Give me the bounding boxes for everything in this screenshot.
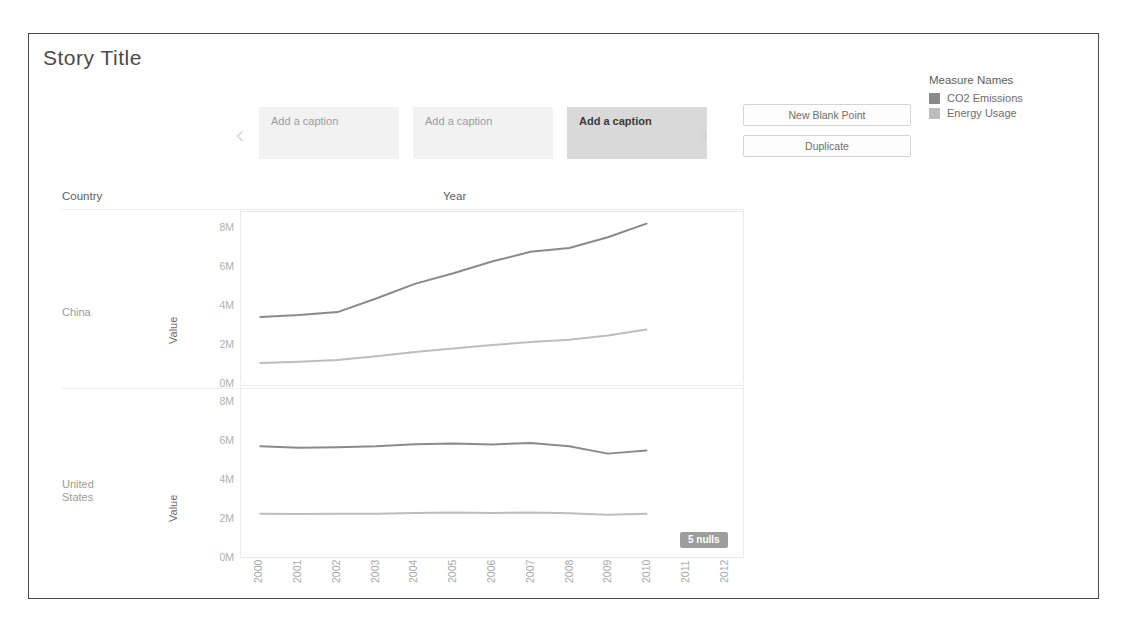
header-divider <box>62 209 744 210</box>
y-axis-title-united-states: Value <box>167 464 180 522</box>
y-tick-label: 2M <box>200 512 234 524</box>
legend-item-co2-emissions[interactable]: CO2 Emissions <box>929 92 1089 104</box>
story-frame: Story Title ‹ Add a caption Add a captio… <box>28 33 1099 599</box>
x-tick-label: 2003 <box>369 560 383 600</box>
caption-strip: Add a caption Add a caption Add a captio… <box>259 107 689 159</box>
row-label-china[interactable]: China <box>62 306 140 319</box>
caption-label: Add a caption <box>579 115 652 127</box>
legend-item-energy-usage[interactable]: Energy Usage <box>929 107 1089 119</box>
x-tick-label: 2002 <box>330 560 344 600</box>
plot-area-united-states[interactable] <box>240 385 744 557</box>
x-tick-label: 2012 <box>718 560 732 600</box>
story-point-1[interactable]: Add a caption <box>259 107 399 159</box>
x-tick-label: 2006 <box>485 560 499 600</box>
legend-label: CO2 Emissions <box>947 92 1023 104</box>
y-tick-label: 2M <box>200 338 234 350</box>
x-axis-line <box>240 557 744 558</box>
y-axis-title-china: Value <box>167 286 180 344</box>
story-actions: New Blank Point Duplicate <box>743 104 923 166</box>
y-tick-label: 8M <box>200 395 234 407</box>
line-series-energy-usage <box>260 513 646 515</box>
caption-label: Add a caption <box>271 115 338 127</box>
line-chart-united-states <box>241 386 743 557</box>
nulls-indicator-badge[interactable]: 5 nulls <box>680 532 728 548</box>
chart-panel-united-states: 0M2M4M6M8M <box>196 385 744 557</box>
x-tick-label: 2011 <box>679 560 693 600</box>
y-axis-ticks-united-states: 0M2M4M6M8M <box>196 385 234 557</box>
caption-label: Add a caption <box>425 115 492 127</box>
duplicate-button[interactable]: Duplicate <box>743 135 911 157</box>
legend-title: Measure Names <box>929 74 1089 86</box>
chevron-left-icon[interactable]: ‹ <box>229 118 251 152</box>
legend-label: Energy Usage <box>947 107 1017 119</box>
new-blank-point-button[interactable]: New Blank Point <box>743 104 911 126</box>
row-label-united-states[interactable]: UnitedStates <box>62 478 140 504</box>
chart-panel-china: 0M2M4M6M8M <box>196 211 744 383</box>
story-point-3-active[interactable]: Add a caption <box>567 107 707 159</box>
year-field-header[interactable]: Year <box>443 190 466 202</box>
plot-area-china[interactable] <box>240 211 744 383</box>
y-tick-label: 6M <box>200 434 234 446</box>
y-tick-label: 6M <box>200 260 234 272</box>
x-tick-label: 2007 <box>524 560 538 600</box>
line-chart-china <box>241 212 743 383</box>
visualization: Country Year China UnitedStates Value Va… <box>29 186 1098 596</box>
x-tick-label: 2001 <box>291 560 305 600</box>
line-series-co2-emissions <box>260 443 646 454</box>
legend-swatch-icon <box>929 108 940 119</box>
chevron-right-icon[interactable]: › <box>693 118 715 152</box>
x-tick-label: 2000 <box>252 560 266 600</box>
y-tick-label: 4M <box>200 299 234 311</box>
x-axis-ticks: 2000200120022003200420052006200720082009… <box>240 560 744 602</box>
line-series-co2-emissions <box>260 224 646 317</box>
x-tick-label: 2004 <box>407 560 421 600</box>
x-tick-label: 2010 <box>640 560 654 600</box>
story-point-2[interactable]: Add a caption <box>413 107 553 159</box>
story-title[interactable]: Story Title <box>43 46 142 70</box>
measure-names-legend: Measure Names CO2 Emissions Energy Usage <box>929 74 1089 122</box>
y-tick-label: 0M <box>200 551 234 563</box>
x-tick-label: 2008 <box>563 560 577 600</box>
country-field-header[interactable]: Country <box>62 190 102 202</box>
x-tick-label: 2005 <box>446 560 460 600</box>
x-tick-label: 2009 <box>601 560 615 600</box>
line-series-energy-usage <box>260 330 646 363</box>
y-axis-ticks-china: 0M2M4M6M8M <box>196 211 234 383</box>
y-tick-label: 4M <box>200 473 234 485</box>
legend-swatch-icon <box>929 93 940 104</box>
panel-divider <box>62 388 744 389</box>
y-tick-label: 8M <box>200 221 234 233</box>
